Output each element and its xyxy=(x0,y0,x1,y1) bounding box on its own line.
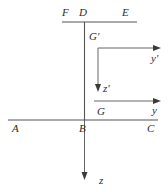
axis-y-prime-arrowhead xyxy=(153,45,161,51)
label-F: F xyxy=(62,7,69,18)
label-A: A xyxy=(12,123,19,134)
label-B: B xyxy=(79,123,86,134)
label-E: E xyxy=(122,7,129,18)
diagram-svg xyxy=(0,0,168,192)
label-z-axis: z xyxy=(99,175,103,186)
label-G: G xyxy=(97,106,105,117)
axis-z-prime-arrowhead xyxy=(95,84,101,92)
diagram-canvas: F D E G' y' z' G y A B C z xyxy=(0,0,168,192)
label-y-prime-axis: y' xyxy=(151,53,158,64)
label-G-prime: G' xyxy=(89,31,99,42)
label-y-axis: y xyxy=(152,105,157,116)
axis-z-arrowhead xyxy=(82,172,88,180)
label-C: C xyxy=(147,123,154,134)
label-z-prime-axis: z' xyxy=(103,83,110,94)
label-D: D xyxy=(79,7,87,18)
